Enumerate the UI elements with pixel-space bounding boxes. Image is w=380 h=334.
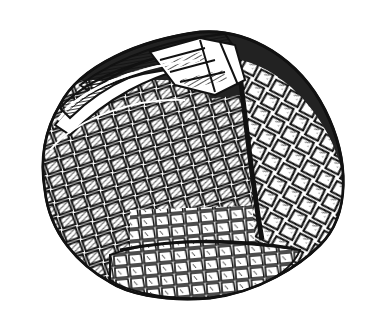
armadillo-body [40, 32, 345, 300]
armadillo-illustration [0, 0, 380, 334]
bottom-fold [110, 242, 300, 298]
illustration-canvas [0, 0, 380, 334]
